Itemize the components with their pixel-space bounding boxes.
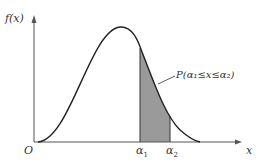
origin-label: O bbox=[24, 145, 33, 156]
a1-subscript: 1 bbox=[143, 151, 147, 159]
a1-label: α1 bbox=[136, 145, 148, 159]
x-axis-arrow-icon bbox=[235, 140, 242, 145]
y-axis-arrow-icon bbox=[32, 15, 37, 23]
annotation-leader bbox=[158, 76, 175, 84]
probability-annotation: P(α₁≤x≤α₂) bbox=[176, 70, 234, 80]
y-axis-label: f(x) bbox=[5, 13, 24, 24]
density-curve bbox=[38, 27, 200, 142]
a2-label: α2 bbox=[166, 145, 178, 159]
a2-subscript: 2 bbox=[173, 151, 177, 159]
diagram-canvas bbox=[0, 0, 271, 162]
x-axis-label: x bbox=[246, 145, 252, 156]
